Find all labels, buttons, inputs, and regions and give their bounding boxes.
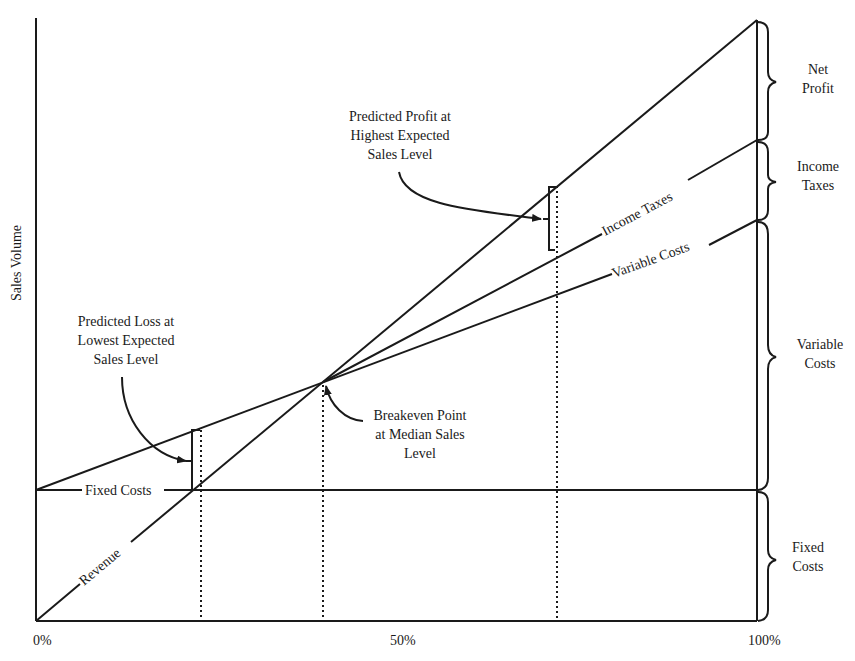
income-taxes-label-line1: Income <box>784 157 852 176</box>
profit-arrow <box>399 172 541 219</box>
breakeven-annotation-line3: Level <box>360 444 480 463</box>
loss-arrow <box>122 377 186 461</box>
fixed-costs-label: Fixed Costs <box>778 538 838 576</box>
variable-costs-label-line2: Costs <box>786 354 854 373</box>
x-tick-100: 100% <box>748 633 781 649</box>
profit-annotation-line3: Sales Level <box>330 145 470 164</box>
breakeven-annotation: Breakeven Point at Median Sales Level <box>360 406 480 463</box>
income-taxes-label-line2: Taxes <box>784 176 852 195</box>
breakeven-annotation-line2: at Median Sales <box>360 425 480 444</box>
loss-annotation-line1: Predicted Loss at <box>56 312 196 331</box>
revenue-line <box>36 584 80 621</box>
income-taxes-line <box>688 140 757 180</box>
loss-annotation-line3: Sales Level <box>56 350 196 369</box>
net-profit-label: Net Profit <box>788 60 848 98</box>
profit-annotation-line2: Highest Expected <box>330 126 470 145</box>
revenue-line-label: Revenue <box>76 545 123 588</box>
breakeven-annotation-line1: Breakeven Point <box>360 406 480 425</box>
net-profit-label-line2: Profit <box>788 79 848 98</box>
net-profit-label-line1: Net <box>788 60 848 79</box>
fixed-costs-brace <box>758 492 776 621</box>
fixed-costs-label-line1: Fixed <box>778 538 838 557</box>
profit-annotation-line1: Predicted Profit at <box>330 107 470 126</box>
net-profit-brace <box>757 22 776 140</box>
breakeven-arrow <box>326 386 363 421</box>
fixed-costs-line-label: Fixed Costs <box>85 483 152 498</box>
variable-costs-label-line1: Variable <box>786 335 854 354</box>
variable-costs-line-label: Variable Costs <box>610 239 691 281</box>
y-axis-label: Sales Volume <box>9 223 25 303</box>
loss-annotation: Predicted Loss at Lowest Expected Sales … <box>56 312 196 369</box>
x-tick-50: 50% <box>390 633 416 649</box>
income-taxes-label: Income Taxes <box>784 157 852 195</box>
variable-costs-line <box>709 220 757 245</box>
variable-costs-label: Variable Costs <box>786 335 854 373</box>
fixed-costs-label-line2: Costs <box>778 557 838 576</box>
loss-bracket <box>186 430 200 490</box>
income-taxes-line-label: Income Taxes <box>599 189 675 239</box>
income-taxes-line <box>323 234 602 382</box>
revenue-line <box>131 20 757 542</box>
loss-annotation-line2: Lowest Expected <box>56 331 196 350</box>
profit-annotation: Predicted Profit at Highest Expected Sal… <box>330 107 470 164</box>
variable-costs-brace <box>758 222 776 490</box>
income-taxes-brace <box>758 142 776 220</box>
x-tick-0: 0% <box>33 633 52 649</box>
